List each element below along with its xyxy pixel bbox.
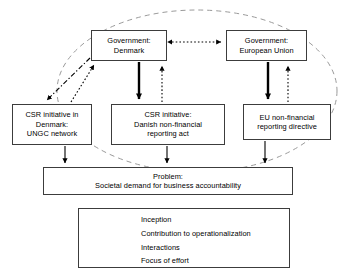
node-line: EU non-financial xyxy=(246,113,328,122)
edge-govdk-ungc-contribution xyxy=(47,58,90,100)
node-line: CSR initiative: xyxy=(114,110,222,119)
diagram-page: Government: Denmark Government: European… xyxy=(0,0,345,277)
node-line: Denmark: xyxy=(15,120,89,129)
legend-item-contribution: Contribution to operationalization xyxy=(79,227,289,240)
node-eu-non-financial-reporting-directive[interactable]: EU non-financial reporting directive xyxy=(243,104,331,140)
node-line: Government: xyxy=(94,36,164,45)
legend-item-inception: Inception xyxy=(79,213,289,226)
node-line: European Union xyxy=(229,46,304,55)
edge-ungc-govdk-interactions xyxy=(71,65,94,102)
legend: Inception Contribution to operationaliza… xyxy=(78,208,290,268)
node-government-european-union[interactable]: Government: European Union xyxy=(226,30,307,61)
node-line: reporting act xyxy=(114,129,222,138)
node-line: reporting directive xyxy=(246,122,328,131)
legend-item-focus: Focus of effort xyxy=(79,254,289,267)
node-line: CSR initiative in xyxy=(15,110,89,119)
node-government-denmark[interactable]: Government: Denmark xyxy=(91,30,167,61)
node-csr-initiative-ungc[interactable]: CSR initiative in Denmark: UNGC network xyxy=(12,104,92,145)
legend-label: Focus of effort xyxy=(141,256,189,265)
legend-label: Inception xyxy=(141,215,171,224)
legend-label: Contribution to operationalization xyxy=(141,229,251,238)
node-line: UNGC network xyxy=(15,129,89,138)
node-line: Danish non-financial xyxy=(114,120,222,129)
node-problem-societal-demand[interactable]: Problem: Societal demand for business ac… xyxy=(43,167,293,195)
node-line: Government: xyxy=(229,36,304,45)
node-line: Problem: xyxy=(46,172,290,181)
node-line: Denmark xyxy=(94,46,164,55)
node-csr-initiative-danish-reporting-act[interactable]: CSR initiative: Danish non-financial rep… xyxy=(111,104,225,145)
legend-item-interactions: Interactions xyxy=(79,241,289,254)
node-line: Societal demand for business accountabil… xyxy=(46,181,290,190)
legend-label: Interactions xyxy=(141,243,180,252)
